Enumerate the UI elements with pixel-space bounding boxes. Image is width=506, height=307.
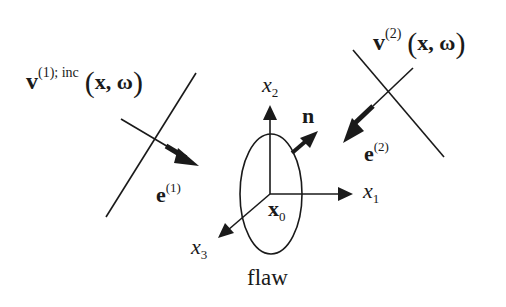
incident-field-args: x, ω xyxy=(95,69,133,94)
normal-arrow-icon xyxy=(292,131,318,153)
e2-label: e(2) xyxy=(364,140,389,165)
incident-field-label: v(1); inc (x, ω) xyxy=(26,66,143,97)
normal-label: n xyxy=(302,105,314,127)
x3-label: x3 xyxy=(191,236,207,261)
flaw-label: flaw xyxy=(247,266,288,289)
scattered-field-label: v(2) (x, ω) xyxy=(373,27,465,58)
x1-label: x1 xyxy=(363,180,379,205)
e1-label: e(1) xyxy=(156,181,181,206)
origin-label: x0 xyxy=(268,198,286,223)
e1-direction-arrow-icon xyxy=(121,119,199,166)
x2-axis-arrow-icon xyxy=(263,105,277,194)
x2-label: x2 xyxy=(262,74,278,99)
x3-axis-arrow-icon xyxy=(218,194,270,238)
